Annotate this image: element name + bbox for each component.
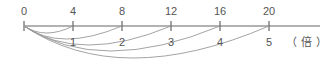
top-label-16: 16 — [214, 5, 226, 17]
top-label-8: 8 — [119, 5, 125, 17]
number-line-diagram: 0 4 8 12 16 20 1 2 3 4 5 （倍） — [0, 0, 335, 79]
top-label-4: 4 — [70, 5, 76, 17]
top-label-12: 12 — [165, 5, 177, 17]
bottom-label-4: 4 — [217, 36, 223, 48]
bottom-label-3: 3 — [168, 36, 174, 48]
top-label-20: 20 — [263, 5, 275, 17]
arcs — [24, 26, 269, 58]
top-label-0: 0 — [21, 5, 27, 17]
bottom-label-1: 1 — [70, 36, 76, 48]
unit-label: （倍） — [286, 36, 331, 48]
bottom-label-2: 2 — [119, 36, 125, 48]
bottom-label-5: 5 — [266, 36, 272, 48]
